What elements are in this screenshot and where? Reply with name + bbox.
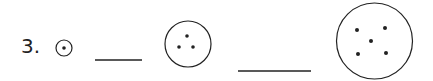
circle-three-dots: [165, 21, 211, 67]
circle-one-dot: [56, 40, 72, 56]
circle-five-dots: [337, 3, 413, 79]
pattern-sequence: [0, 0, 433, 81]
